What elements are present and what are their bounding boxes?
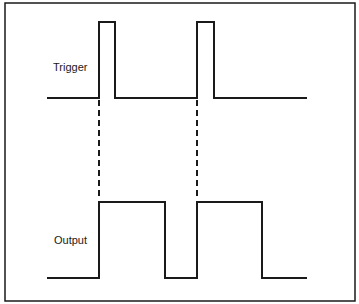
trigger-waveform bbox=[47, 22, 307, 98]
dashed-alignment-lines bbox=[99, 100, 197, 200]
diagram-frame bbox=[5, 3, 355, 301]
timing-diagram: Trigger Output bbox=[0, 0, 359, 304]
trigger-label: Trigger bbox=[53, 61, 88, 73]
output-label: Output bbox=[54, 234, 87, 246]
